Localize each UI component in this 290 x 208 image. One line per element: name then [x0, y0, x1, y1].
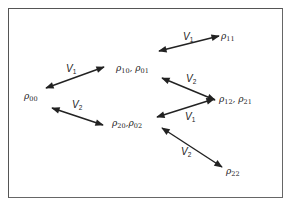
state-node-rho00: ρ00: [24, 92, 38, 103]
edge-label: V2: [186, 74, 196, 86]
node-subscript: 21: [244, 98, 252, 106]
state-node-rho11: ρ11: [221, 32, 235, 43]
edge-label: V1: [185, 112, 195, 124]
node-subscript: 11: [226, 35, 234, 43]
edge-label: V1: [183, 32, 193, 44]
edge-label: V1: [66, 64, 76, 76]
state-node-rho12_21: ρ12, ρ21: [219, 95, 252, 106]
edge-label: V2: [72, 100, 82, 112]
node-subscript: 10: [121, 67, 129, 75]
node-subscript: 02: [134, 122, 142, 130]
bidirectional-arrow-icon: [162, 128, 222, 167]
state-node-rho22: ρ22: [226, 167, 240, 178]
node-subscript: 00: [29, 95, 37, 103]
node-subscript: 01: [141, 67, 149, 75]
node-subscript: 22: [231, 170, 239, 178]
state-node-rho20_02: ρ20,ρ02: [112, 119, 142, 130]
diagram-canvas: ρ00ρ10, ρ01ρ11ρ12, ρ21ρ20,ρ02ρ22 V1V2V1V…: [0, 0, 290, 208]
edge-label: V2: [181, 147, 191, 159]
state-node-rho10_01: ρ10, ρ01: [116, 64, 149, 75]
node-subscript: 20: [117, 122, 125, 130]
node-subscript: 12: [224, 98, 232, 106]
